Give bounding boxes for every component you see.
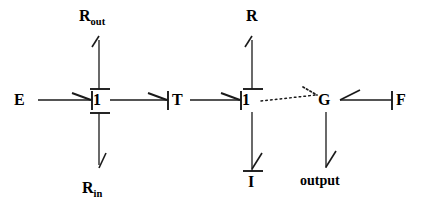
label-r-out-base: R [79, 7, 91, 24]
half-arrow-i [252, 153, 262, 169]
label-r-in: Rin [82, 180, 102, 196]
label-output: output [300, 174, 340, 188]
half-arrow-f-to-g [340, 90, 360, 100]
label-gyrator: G [318, 92, 330, 108]
half-arrow-t-to-junction2 [221, 93, 240, 100]
label-r-in-base: R [82, 179, 94, 196]
label-resistor: R [246, 8, 258, 24]
label-r-out: Rout [79, 8, 105, 24]
half-arrow-junction1-to-t [148, 93, 167, 100]
label-junction-left: 1 [93, 92, 101, 108]
bond-line-dotted-junction2-to-g [261, 95, 316, 101]
label-inertia: I [248, 174, 254, 190]
label-r-out-subscript: out [91, 16, 106, 27]
half-arrow-e-to-junction1 [72, 93, 91, 100]
label-transformer: T [172, 92, 183, 108]
bond-graph-canvas [0, 0, 423, 206]
half-arrow-r [245, 36, 252, 47]
label-f-source: F [396, 92, 406, 108]
label-e-source: E [14, 92, 25, 108]
half-arrow-rout [92, 36, 99, 47]
label-junction-right: 1 [242, 92, 250, 108]
bond-graph-diagram: E 1 Rout Rin T 1 R I G output F [0, 0, 423, 206]
half-arrow-rin [99, 153, 106, 168]
label-r-in-subscript: in [94, 188, 103, 199]
half-arrow-dotted-to-g [303, 87, 317, 95]
half-arrow-output [326, 151, 336, 167]
